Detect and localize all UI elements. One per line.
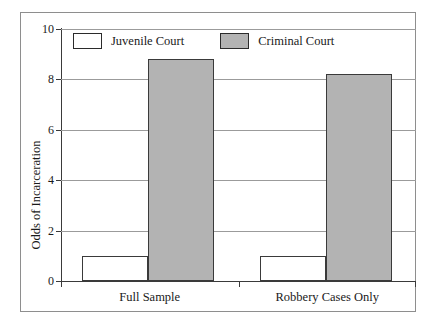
y-axis-title: Odds of Incarceration xyxy=(28,69,44,321)
y-tick-mark-10 xyxy=(56,29,61,30)
legend-entry-criminal: Criminal Court xyxy=(220,33,334,49)
legend-label-criminal: Criminal Court xyxy=(258,35,334,48)
legend-swatch-juvenile-icon xyxy=(73,33,102,49)
x-category-label-full-sample: Full Sample xyxy=(119,291,180,304)
chart-figure-frame: Odds of Incarceration 0246810 Full Sampl… xyxy=(20,12,416,312)
y-axis-line xyxy=(61,28,62,281)
legend-label-juvenile: Juvenile Court xyxy=(111,35,184,48)
y-tick-label-10: 10 xyxy=(42,23,54,35)
y-tick-mark-4 xyxy=(56,180,61,181)
y-tick-label-2: 2 xyxy=(48,225,54,237)
bar-juvenile-court-full-sample xyxy=(82,256,148,281)
y-tick-mark-8 xyxy=(56,79,61,80)
y-tick-mark-6 xyxy=(56,130,61,131)
y-tick-label-4: 4 xyxy=(48,174,54,186)
y-tick-mark-2 xyxy=(56,231,61,232)
x-tick-mark-2 xyxy=(415,281,416,287)
chart-legend: Juvenile Court Criminal Court xyxy=(73,33,334,49)
bar-criminal-court-full-sample xyxy=(148,59,214,281)
bar-juvenile-court-robbery-cases-only xyxy=(260,256,326,281)
y-tick-label-6: 6 xyxy=(48,124,54,136)
bar-criminal-court-robbery-cases-only xyxy=(326,74,392,281)
legend-swatch-criminal-icon xyxy=(220,33,249,49)
x-category-label-robbery-cases-only: Robbery Cases Only xyxy=(276,291,379,304)
plot-area: 0246810 Full SampleRobbery Cases Only Ju… xyxy=(61,29,416,281)
y-tick-label-8: 8 xyxy=(48,73,54,85)
y-tick-label-0: 0 xyxy=(48,275,54,287)
gridline-10 xyxy=(61,29,416,30)
x-tick-mark-0 xyxy=(61,281,62,287)
legend-entry-juvenile: Juvenile Court xyxy=(73,33,184,49)
x-tick-mark-1 xyxy=(239,281,240,287)
